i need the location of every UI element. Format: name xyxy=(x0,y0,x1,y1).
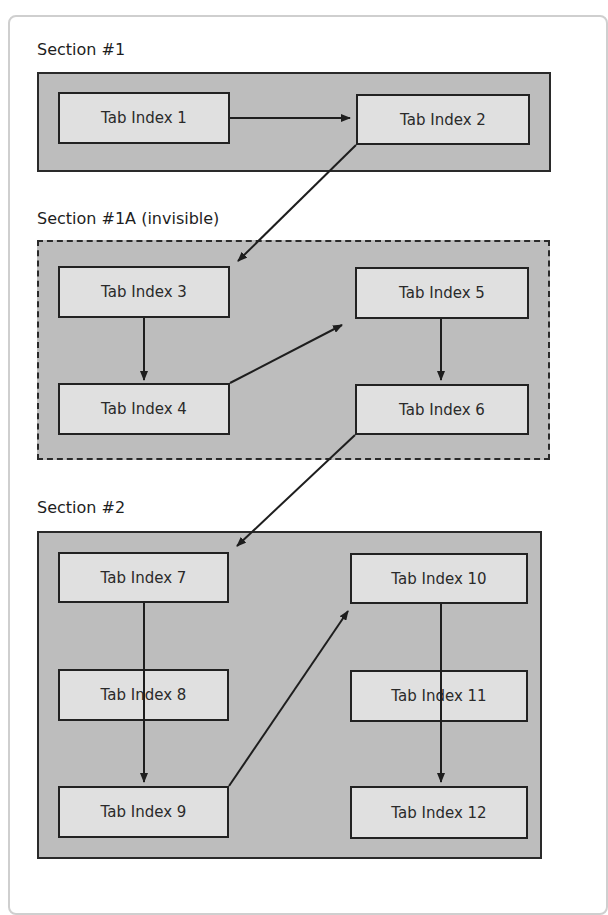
tab-index-1[interactable]: Tab Index 1 xyxy=(58,92,230,144)
tab-index-4[interactable]: Tab Index 4 xyxy=(58,383,230,435)
tab-index-5[interactable]: Tab Index 5 xyxy=(355,267,529,319)
section-1-title: Section #1 xyxy=(37,40,125,60)
section-1a-title: Section #1A (invisible) xyxy=(37,209,219,229)
tab-index-2[interactable]: Tab Index 2 xyxy=(356,94,530,145)
tab-index-10[interactable]: Tab Index 10 xyxy=(350,553,528,604)
tab-index-9[interactable]: Tab Index 9 xyxy=(58,786,229,838)
section-2-title: Section #2 xyxy=(37,498,125,518)
tab-index-12[interactable]: Tab Index 12 xyxy=(350,786,528,839)
tab-index-3[interactable]: Tab Index 3 xyxy=(58,266,230,318)
tab-index-8[interactable]: Tab Index 8 xyxy=(58,669,229,721)
tab-index-11[interactable]: Tab Index 11 xyxy=(350,670,528,722)
tab-index-7[interactable]: Tab Index 7 xyxy=(58,552,229,603)
tab-index-6[interactable]: Tab Index 6 xyxy=(355,384,529,435)
